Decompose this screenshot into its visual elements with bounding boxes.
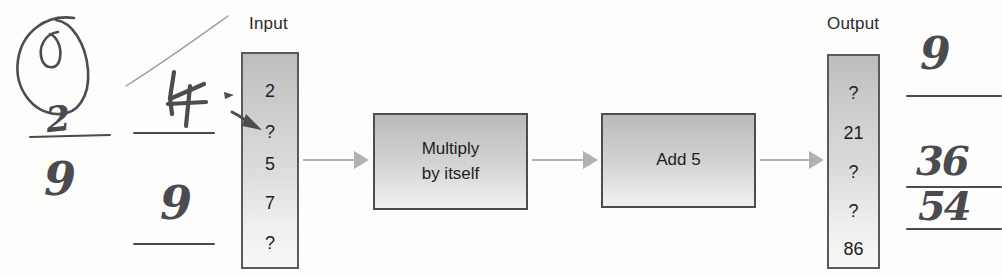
process-label-line1: Add 5 — [656, 148, 700, 172]
handwritten-underline — [906, 95, 1002, 97]
output-cell: 86 — [829, 240, 878, 258]
arrow-input-to-multiply — [303, 149, 369, 171]
handwritten-left-denominator: 9 — [44, 152, 76, 206]
input-column-label: Input — [249, 14, 288, 34]
arrow-head-icon — [809, 151, 824, 169]
handwritten-underline — [133, 132, 215, 134]
arrow-shaft — [303, 159, 355, 161]
output-value-column: ? 21 ? ? 86 — [827, 54, 880, 269]
handwritten-right-digit-nine: 9 — [920, 28, 951, 79]
arrow-add-to-output — [760, 149, 824, 171]
arrow-head-icon — [583, 151, 598, 169]
handwritten-left-numerator: 2 — [44, 97, 73, 140]
process-label-line2: by itself — [422, 162, 480, 186]
worksheet-canvas: Input Output 2 ? 5 7 ? Multiply by itsel… — [0, 0, 1002, 277]
handwritten-digit-four-with-arrow — [160, 68, 270, 148]
input-cell: ? — [243, 234, 297, 252]
arrow-shaft — [532, 159, 584, 161]
output-cell: 21 — [829, 124, 878, 142]
process-label-line1: Multiply — [422, 137, 480, 161]
process-box-add: Add 5 — [601, 113, 756, 208]
output-cell: ? — [829, 84, 878, 102]
output-cell: ? — [829, 202, 878, 220]
process-box-multiply: Multiply by itself — [373, 113, 528, 210]
output-cell: ? — [829, 163, 878, 181]
handwritten-right-denominator: 54 — [918, 182, 970, 229]
output-column-label: Output — [827, 14, 879, 34]
handwritten-left-digit-nine: 9 — [160, 176, 192, 230]
handwritten-right-numerator: 36 — [916, 137, 968, 184]
input-cell: 7 — [243, 194, 297, 212]
arrow-shaft — [760, 159, 810, 161]
input-cell: 5 — [243, 155, 297, 173]
arrow-multiply-to-add — [532, 149, 598, 171]
handwritten-underline — [133, 243, 215, 245]
arrow-head-icon — [354, 151, 369, 169]
handwritten-underline — [906, 228, 1002, 230]
